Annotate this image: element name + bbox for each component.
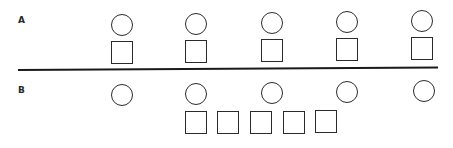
row-b-square-5 bbox=[315, 110, 337, 133]
row-b-circle-2 bbox=[185, 83, 207, 105]
row-b-square-3 bbox=[250, 111, 272, 134]
diagram: A B bbox=[0, 0, 453, 148]
row-a-circle-2 bbox=[185, 13, 207, 35]
row-b-circle-1 bbox=[111, 84, 133, 106]
row-a-square-2 bbox=[185, 40, 207, 63]
row-b-square-2 bbox=[217, 111, 239, 134]
row-b-circle-5 bbox=[413, 80, 435, 102]
row-a-circle-4 bbox=[336, 11, 358, 33]
row-b-label: B bbox=[18, 86, 25, 95]
row-a-square-1 bbox=[111, 41, 133, 64]
row-b-circle-3 bbox=[261, 82, 283, 104]
row-b-circle-4 bbox=[336, 81, 358, 103]
row-a-circle-1 bbox=[111, 14, 133, 36]
row-divider-line bbox=[18, 66, 438, 71]
row-a-square-3 bbox=[261, 39, 283, 62]
row-a-square-5 bbox=[411, 37, 433, 60]
row-a-square-4 bbox=[336, 38, 358, 61]
row-a-circle-3 bbox=[261, 12, 283, 34]
row-b-square-4 bbox=[283, 111, 305, 134]
row-a-circle-5 bbox=[411, 10, 433, 32]
row-a-label: A bbox=[18, 16, 25, 25]
row-b-square-1 bbox=[185, 111, 207, 134]
